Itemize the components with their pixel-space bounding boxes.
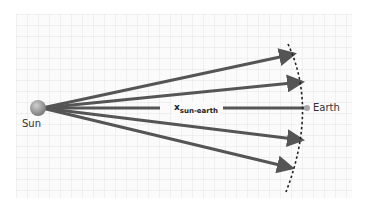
earth-icon [304, 105, 310, 111]
distance-label: xsun-earth [172, 102, 220, 115]
distance-label-subscript: sun-earth [180, 107, 218, 115]
earth-label: Earth [313, 102, 340, 113]
diagram-canvas: Sun Earth xsun-earth [0, 0, 365, 217]
sun-icon [30, 100, 46, 116]
sun-label: Sun [22, 118, 41, 129]
